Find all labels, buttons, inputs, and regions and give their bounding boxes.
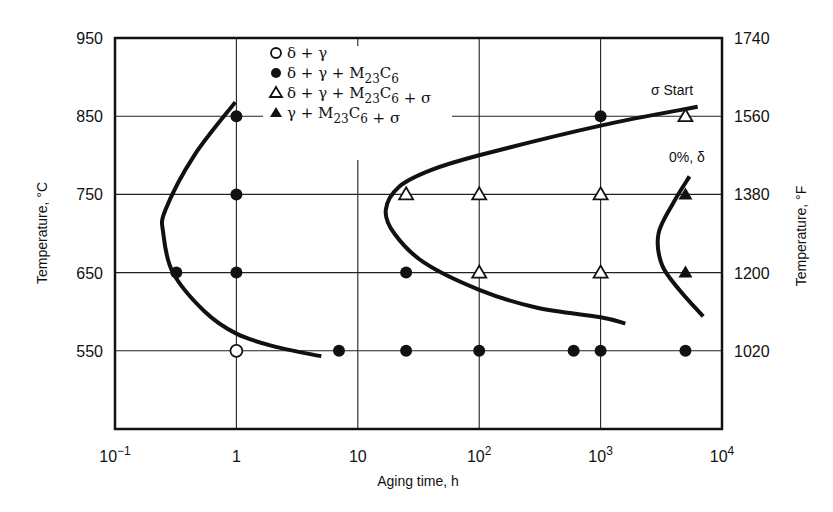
open-triangle-marker bbox=[270, 87, 282, 97]
curve bbox=[162, 102, 321, 356]
y-tick-label-right: 1380 bbox=[734, 186, 770, 203]
filled-circle-marker bbox=[400, 267, 412, 279]
filled-circle-marker bbox=[595, 345, 607, 357]
x-axis-ticks: 10−1110102103104 bbox=[99, 444, 734, 465]
filled-circle-marker bbox=[679, 345, 691, 357]
x-tick-label: 10−1 bbox=[99, 444, 131, 465]
y-tick-label-left: 850 bbox=[76, 108, 103, 125]
filled-circle-marker bbox=[400, 345, 412, 357]
filled-circle-marker bbox=[271, 68, 281, 78]
filled-triangle-marker bbox=[270, 107, 282, 117]
x-tick-exponent: 4 bbox=[728, 444, 735, 458]
x-tick-exponent: 3 bbox=[606, 444, 613, 458]
x-tick-label: 102 bbox=[467, 444, 492, 465]
open-circle-marker bbox=[230, 345, 242, 357]
phase-boundary-curves bbox=[162, 102, 703, 356]
y-tick-label-left: 950 bbox=[76, 30, 103, 47]
filled-circle-marker bbox=[473, 345, 485, 357]
y-axis-left-ticks: 950850750650550 bbox=[76, 30, 103, 360]
open-triangle-marker bbox=[594, 266, 608, 278]
open-circle-marker bbox=[271, 48, 281, 58]
open-triangle-marker bbox=[399, 187, 413, 199]
curve bbox=[386, 107, 698, 324]
x-tick-label: 103 bbox=[588, 444, 613, 465]
filled-circle-marker bbox=[230, 188, 242, 200]
filled-circle-marker bbox=[230, 267, 242, 279]
filled-circle-marker bbox=[333, 345, 345, 357]
filled-triangle-marker bbox=[678, 266, 692, 278]
y-tick-label-right: 1740 bbox=[734, 30, 770, 47]
legend-item-label: δ + γ bbox=[287, 44, 327, 62]
chart-figure: 950850750650550 17401560138012001020 10−… bbox=[0, 0, 833, 512]
y-tick-label-left: 550 bbox=[76, 343, 103, 360]
zero-delta-label: 0%, δ bbox=[669, 149, 705, 165]
y-tick-label-left: 650 bbox=[76, 265, 103, 282]
y-tick-label-right: 1560 bbox=[734, 108, 770, 125]
y-axis-right-ticks: 17401560138012001020 bbox=[734, 30, 770, 360]
x-tick-exponent: 2 bbox=[485, 444, 492, 458]
y-tick-label-right: 1020 bbox=[734, 343, 770, 360]
legend-item-label: δ + γ + M23C6 bbox=[287, 64, 399, 86]
filled-circle-marker bbox=[595, 110, 607, 122]
open-triangle-marker bbox=[594, 187, 608, 199]
legend: δ + γδ + γ + M23C6δ + γ + M23C6 + σγ + M… bbox=[270, 44, 431, 127]
y-tick-label-right: 1200 bbox=[734, 265, 770, 282]
y-tick-label-left: 750 bbox=[76, 186, 103, 203]
filled-circle-marker bbox=[170, 267, 182, 279]
x-tick-label: 10 bbox=[349, 448, 367, 465]
legend-item-label: γ + M23C6 + σ bbox=[287, 104, 400, 127]
y-axis-right-title: Temperature, °F bbox=[793, 186, 809, 287]
x-tick-label: 104 bbox=[710, 444, 735, 465]
sigma-start-label: σ Start bbox=[651, 82, 693, 98]
open-triangle-marker bbox=[472, 266, 486, 278]
x-tick-exponent: −1 bbox=[117, 444, 131, 458]
filled-circle-marker bbox=[568, 345, 580, 357]
y-axis-left-title: Temperature, °C bbox=[34, 182, 50, 284]
x-tick-label: 1 bbox=[232, 448, 241, 465]
filled-circle-marker bbox=[230, 110, 242, 122]
x-axis-title: Aging time, h bbox=[377, 473, 459, 489]
open-triangle-marker bbox=[472, 187, 486, 199]
